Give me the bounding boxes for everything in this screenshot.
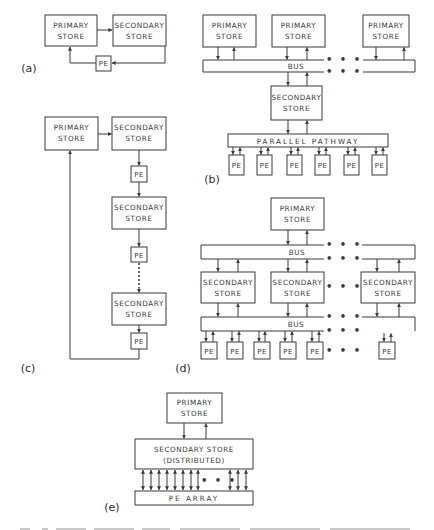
svg-text:PE: PE [318, 162, 328, 170]
pe-row: PE PE PE PE PE • • • PE [201, 342, 395, 359]
panel-label-b: (b) [204, 173, 220, 186]
svg-text:STORE: STORE [126, 32, 153, 41]
feedback-loop-arrow [70, 151, 139, 360]
svg-text:STORE: STORE [125, 310, 152, 319]
secondary-store-box: SECONDARY STORE [112, 293, 166, 325]
pe-arrows [233, 147, 383, 155]
panel-label-c: (c) [21, 362, 36, 375]
svg-text:PE: PE [283, 348, 293, 356]
panel-d: PRIMARY STORE BUS • • • • • • SECONDARY … [175, 198, 415, 375]
svg-text:STORE: STORE [284, 215, 311, 224]
svg-text:STORE: STORE [125, 134, 152, 143]
svg-text:STORE: STORE [372, 32, 399, 41]
ellipsis: • • • [326, 253, 362, 264]
svg-text:PE: PE [134, 252, 144, 260]
svg-text:PRIMARY: PRIMARY [177, 398, 213, 407]
pe-box: PE [344, 155, 359, 175]
ellipsis: • • • [326, 54, 362, 65]
pe-box: PE [379, 342, 395, 359]
ellipsis: • • • [326, 345, 362, 356]
panel-label-e: (e) [104, 501, 119, 514]
svg-text:PE: PE [134, 338, 144, 346]
svg-text:SECONDARY: SECONDARY [273, 278, 323, 287]
bus: BUS • • • • • • [201, 239, 415, 264]
primary-store-box: PRIMARY STORE [167, 393, 222, 423]
pe-box: PE [131, 333, 147, 349]
primary-store-box: PRIMARY STORE [45, 117, 98, 150]
svg-text:BUS: BUS [289, 248, 306, 257]
secondary-store-box: SECONDARY STORE [112, 117, 166, 150]
pe-box: PE [280, 342, 296, 359]
panel-c: PRIMARY STORE SECONDARY STORE PE SECONDA… [21, 117, 166, 375]
primary-store-box: PRIMARY STORE [271, 198, 324, 230]
ellipsis: • • • [326, 239, 362, 250]
svg-text:PE: PE [204, 348, 214, 356]
pe-box: PE [227, 342, 243, 359]
pe-box: PE [307, 342, 323, 359]
panel-b: PRIMARY STORE PRIMARY STORE PRIMARY STOR… [203, 15, 415, 186]
pe-array-box: PE ARRAY [135, 491, 253, 505]
svg-text:PRIMARY: PRIMARY [280, 204, 316, 213]
arrow-secondary-to-pe [112, 46, 165, 63]
pe-box: PE [229, 155, 244, 175]
svg-text:STORE: STORE [284, 289, 311, 298]
svg-text:PARALLEL PATHWAY: PARALLEL PATHWAY [257, 137, 360, 146]
primary-store-box: PRIMARY STORE [272, 15, 325, 47]
pe-box: PE [96, 56, 111, 71]
svg-text:SECONDARY: SECONDARY [272, 93, 322, 102]
panel-label-d: (d) [175, 362, 191, 375]
bus: BUS • • • • • • [201, 311, 415, 336]
svg-text:SECONDARY: SECONDARY [114, 203, 164, 212]
svg-text:STORE: STORE [181, 409, 208, 418]
secondary-store-box: SECONDARY STORE [271, 272, 324, 303]
pe-box: PE [131, 247, 147, 262]
pe-box: PE [254, 342, 270, 359]
panel-a: PRIMARY STORE SECONDARY STORE PE (a) [21, 15, 166, 75]
svg-text:PE: PE [134, 171, 144, 179]
secondary-store-box: SECONDARY STORE [201, 272, 255, 303]
svg-text:PRIMARY: PRIMARY [54, 123, 90, 132]
secondary-store-box: SECONDARY STORE [361, 272, 415, 303]
secondary-store-box: SECONDARY STORE [112, 197, 166, 229]
ellipsis: • • • [326, 325, 362, 336]
panel-e: PRIMARY STORE SECONDARY STORE (DISTRIBUT… [104, 393, 253, 514]
svg-text:STORE: STORE [214, 289, 241, 298]
ellipsis: • • • [201, 475, 237, 486]
svg-text:PE: PE [347, 162, 357, 170]
svg-text:BUS: BUS [288, 62, 305, 71]
arrow-pe-to-primary [70, 47, 96, 63]
secondary-store-box: SECONDARY STORE [113, 15, 166, 46]
svg-text:PE: PE [230, 348, 240, 356]
pe-box: PE [287, 155, 302, 175]
pe-box: PE [315, 155, 330, 175]
svg-text:PE: PE [375, 162, 385, 170]
svg-text:STORE: STORE [374, 289, 401, 298]
svg-text:PE: PE [310, 348, 320, 356]
svg-text:STORE: STORE [58, 134, 85, 143]
svg-text:BUS: BUS [288, 320, 305, 329]
panel-label-a: (a) [21, 62, 36, 75]
svg-text:PE ARRAY: PE ARRAY [169, 494, 220, 503]
pe-box: PE [372, 155, 387, 175]
primary-store-box: PRIMARY STORE [203, 15, 256, 47]
parallel-pathway: PARALLEL PATHWAY [228, 134, 388, 147]
svg-text:PRIMARY: PRIMARY [368, 21, 404, 30]
svg-text:STORE: STORE [57, 32, 84, 41]
svg-text:STORE: STORE [216, 32, 243, 41]
svg-text:SECONDARY: SECONDARY [114, 299, 164, 308]
svg-text:PRIMARY: PRIMARY [212, 21, 248, 30]
svg-text:STORE: STORE [283, 104, 310, 113]
pe-row: PE PE PE PE PE PE [229, 155, 387, 175]
ellipsis: • • • [326, 281, 362, 292]
secondary-store-box: SECONDARY STORE [271, 86, 322, 120]
primary-store-box: PRIMARY STORE [363, 15, 409, 47]
pe-box: PE [201, 342, 217, 359]
pe-box: PE [131, 166, 147, 182]
svg-text:SECONDARY STORE: SECONDARY STORE [154, 445, 234, 454]
bidirectional-arrows: • • • [143, 470, 246, 490]
pe-box: PE [257, 155, 272, 175]
svg-text:PE: PE [382, 348, 392, 356]
secondary-store-distributed-box: SECONDARY STORE (DISTRIBUTED) [135, 439, 253, 469]
svg-text:PE: PE [257, 348, 267, 356]
svg-text:PE: PE [260, 162, 270, 170]
